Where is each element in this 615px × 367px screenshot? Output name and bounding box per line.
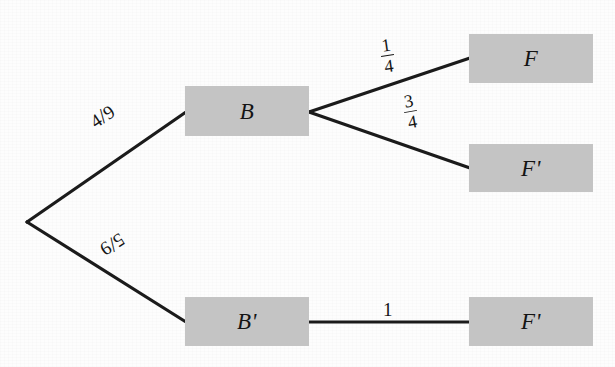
node-B-prime[interactable]: B': [185, 297, 309, 346]
fraction-numerator: 1: [378, 35, 394, 56]
node-B-prime-label: B': [237, 310, 257, 333]
edge-root-to-B: [27, 112, 186, 222]
node-F-prime-upper[interactable]: F': [469, 144, 593, 192]
node-F-prime-lower[interactable]: F': [469, 297, 593, 346]
edge-label-Bprime-to-Fprime: 1: [383, 300, 393, 319]
node-F[interactable]: F: [469, 34, 593, 83]
probability-tree-diagram: B B' F F' F' 4/9 5/9 1 4 3 4: [0, 0, 615, 367]
node-B-label: B: [240, 100, 255, 123]
probability-one: 1: [383, 299, 393, 320]
node-F-prime-upper-label: F': [521, 157, 541, 180]
fraction-denominator: 4: [381, 54, 397, 76]
node-F-prime-lower-label: F': [521, 310, 541, 333]
edge-B-to-Fprime: [309, 112, 470, 168]
node-F-label: F: [524, 47, 539, 70]
node-B[interactable]: B: [185, 86, 309, 136]
